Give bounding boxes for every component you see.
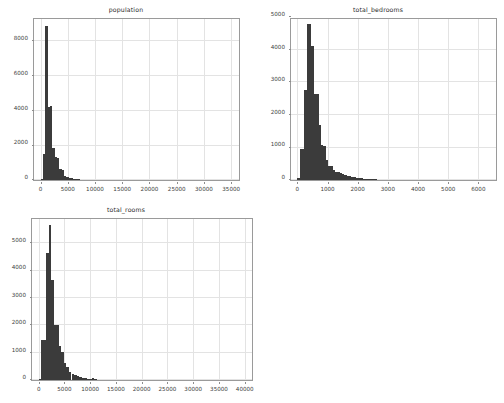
gridline-vertical [388,19,389,180]
y-axis-tick-label: 5000 [0,237,26,243]
x-axis-tick [149,182,150,184]
y-axis-tick [289,147,291,148]
gridline-horizontal [34,40,239,41]
gridline-horizontal [291,81,496,82]
axes-population: 0500010000150002000025000300003500002000… [33,18,240,181]
y-axis-tick-label: 2000 [259,109,285,115]
gridline-vertical [193,219,194,380]
gridline-horizontal [32,324,252,325]
x-axis-tick [39,382,40,384]
x-axis-tick [64,382,65,384]
histogram-bar [140,380,143,381]
subplot-empty-slot [252,200,504,403]
y-axis-tick [30,379,32,380]
x-axis-tick [358,182,359,184]
x-axis-tick [231,182,232,184]
axes-total-rooms: 0500010000150002000025000300003500040000… [31,218,253,381]
histogram-bar [195,380,198,381]
x-axis-tick-label: 20000 [141,186,159,192]
y-axis-tick-label: 3000 [0,292,26,298]
gridline-vertical [142,219,143,380]
gridline-vertical [68,19,69,180]
x-axis-tick-label: 35000 [210,386,228,392]
plot-area-total-bedrooms [291,19,496,180]
y-axis-tick-label: 2000 [2,139,28,145]
histogram-bar [170,380,173,381]
x-axis-tick [41,182,42,184]
figure-canvas: population 05000100001500020000250003000… [0,0,504,403]
subplot-title-total-bedrooms: total_bedrooms [252,6,504,13]
x-axis-tick-label: 5000 [57,386,71,392]
gridline-horizontal [32,297,252,298]
gridline-vertical [39,219,40,380]
gridline-vertical [177,19,178,180]
gridline-vertical [64,219,65,380]
x-axis-tick-label: 0 [37,386,41,392]
histogram-bar [408,180,410,181]
gridline-horizontal [32,352,252,353]
histogram-bar [123,180,125,181]
x-axis-tick [448,182,449,184]
x-axis-tick [177,182,178,184]
gridline-vertical [41,19,42,180]
x-axis-tick-label: 35000 [222,186,240,192]
x-axis-tick [116,382,117,384]
x-axis-tick-label: 3000 [381,186,395,192]
gridline-vertical [116,219,117,380]
histogram-bar [195,180,197,181]
plot-area-total-rooms [32,219,252,380]
x-axis-tick-label: 20000 [133,386,151,392]
subplot-title-population: population [0,6,252,13]
x-axis-tick [68,182,69,184]
histogram-bar [125,380,128,381]
x-axis-tick-label: 0 [296,186,300,192]
gridline-vertical [328,19,329,180]
y-axis-tick-label: 4000 [0,264,26,270]
x-axis-tick-label: 0 [39,186,43,192]
subplot-population: population 05000100001500020000250003000… [0,0,252,200]
gridline-vertical [297,19,298,180]
y-axis-tick [30,242,32,243]
y-axis-tick-label: 8000 [2,35,28,41]
histogram-bar [241,380,244,381]
y-axis-tick-label: 4000 [2,105,28,111]
x-axis-tick-label: 30000 [184,386,202,392]
y-axis-tick-label: 5000 [259,11,285,17]
y-axis-tick-label: 0 [0,374,26,380]
gridline-horizontal [34,110,239,111]
y-axis-tick [30,324,32,325]
y-axis-tick-label: 1000 [259,141,285,147]
gridline-vertical [95,19,96,180]
x-axis-tick-label: 15000 [107,386,125,392]
gridline-horizontal [34,145,239,146]
histogram-bar [135,380,138,381]
y-axis-tick [289,81,291,82]
x-axis-tick [122,182,123,184]
x-axis-tick-label: 25000 [168,186,186,192]
axes-total-bedrooms: 0100020003000400050006000010002000300040… [290,18,497,181]
subplot-total-rooms: total_rooms 0500010000150002000025000300… [0,200,252,403]
x-axis-tick-label: 4000 [411,186,425,192]
gridline-horizontal [32,270,252,271]
y-axis-tick [30,297,32,298]
x-axis-tick-label: 1000 [320,186,334,192]
x-axis-tick-label: 2000 [351,186,365,192]
y-axis-tick [32,40,34,41]
x-axis-tick [245,382,246,384]
histogram-bar [439,180,441,181]
histogram-bar [231,180,233,181]
histogram-bar [150,380,153,381]
gridline-vertical [219,219,220,380]
x-axis-tick [95,182,96,184]
x-axis-tick [90,382,91,384]
y-axis-tick [30,270,32,271]
y-axis-tick [289,49,291,50]
x-axis-tick [328,182,329,184]
x-axis-tick-label: 40000 [236,386,254,392]
x-axis-tick [478,182,479,184]
histogram-bar [205,380,208,381]
y-axis-tick-label: 0 [2,174,28,180]
gridline-vertical [358,19,359,180]
x-axis-tick [204,182,205,184]
y-axis-tick-label: 0 [259,174,285,180]
